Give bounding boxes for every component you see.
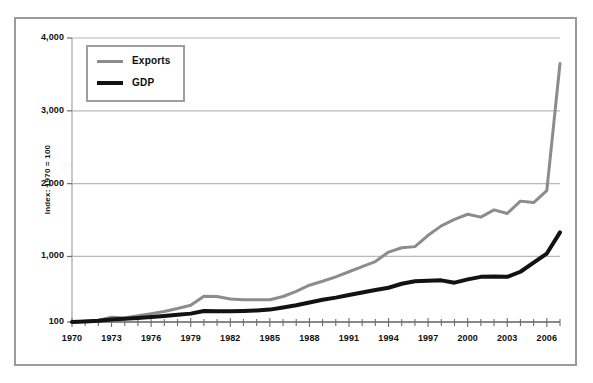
x-axis-tick-label: 1979 — [171, 333, 211, 343]
x-axis-tick-label: 2000 — [448, 333, 488, 343]
x-axis-tick-label: 1988 — [289, 333, 329, 343]
x-axis-tick-label: 1991 — [329, 333, 369, 343]
y-axis-tick-label: 2,000 — [20, 178, 64, 188]
x-axis-tick-label: 1994 — [369, 333, 409, 343]
x-axis-tick-label: 2003 — [487, 333, 527, 343]
legend-label-gdp: GDP — [132, 78, 154, 88]
legend-item-exports[interactable]: Exports — [97, 56, 171, 66]
x-axis-tick-label: 1982 — [210, 333, 250, 343]
x-axis-tick-label: 1976 — [131, 333, 171, 343]
legend-swatch-exports-icon — [97, 60, 123, 63]
legend-item-gdp[interactable]: GDP — [97, 78, 154, 88]
y-axis-tick-label: 100 — [20, 316, 64, 326]
legend-swatch-gdp-icon — [97, 81, 123, 85]
chart-legend[interactable]: Exports GDP — [86, 45, 185, 102]
x-axis-tick-label: 1973 — [92, 333, 132, 343]
x-axis-tick-label: 1997 — [408, 333, 448, 343]
y-axis-tick-label: 1,000 — [20, 250, 64, 260]
legend-label-exports: Exports — [132, 56, 171, 66]
x-axis-tick-label: 1970 — [52, 333, 92, 343]
x-axis-tick-label: 2006 — [527, 333, 567, 343]
x-axis-tick-label: 1985 — [250, 333, 290, 343]
y-axis-tick-label: 4,000 — [20, 32, 64, 42]
y-axis-tick-label: 3,000 — [20, 105, 64, 115]
chart-figure: Key Concepts in Internat and Business ch… — [0, 0, 593, 383]
